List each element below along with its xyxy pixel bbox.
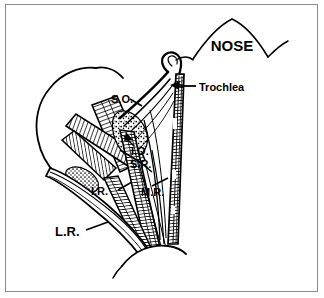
medial-rectus-muscle	[168, 74, 184, 244]
label-medial-rectus: M.R.	[141, 186, 164, 198]
orbital-apex	[113, 246, 186, 278]
label-inferior-rectus: I.R.	[91, 185, 108, 197]
label-superior-oblique: S.O.	[111, 93, 133, 105]
label-nose: NOSE	[211, 37, 254, 54]
anatomical-diagram: NOSE Trochlea S.O. I.O. S.R. M.R. I.R. L…	[0, 0, 324, 298]
label-trochlea: Trochlea	[199, 81, 245, 93]
label-superior-rectus: S.R.	[130, 158, 151, 170]
figure-root: NOSE Trochlea S.O. I.O. S.R. M.R. I.R. L…	[0, 0, 324, 298]
label-lateral-rectus: L.R.	[55, 224, 80, 239]
label-inferior-oblique: I.O.	[131, 145, 149, 157]
